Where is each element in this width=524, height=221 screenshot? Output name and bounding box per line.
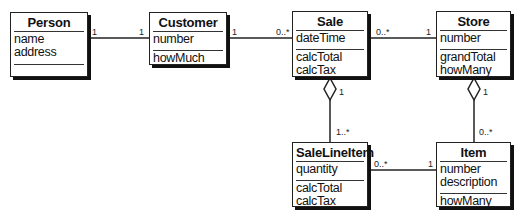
attribute: quantity (296, 163, 364, 176)
attributes-section: dateTime (296, 31, 364, 50)
operation: calcTax (296, 64, 364, 77)
aggregation-diamond-sale (324, 78, 336, 100)
attribute: description (440, 176, 507, 189)
class-name: Item (440, 143, 507, 162)
operation: calcTax (296, 195, 364, 208)
attributes-section: quantity (296, 162, 364, 181)
class-name: Customer (153, 13, 223, 32)
operation: howMuch (153, 52, 223, 65)
multiplicity-sale-salelineitem-to: 1..* (336, 128, 350, 137)
multiplicity-person-customer-to: 1 (139, 28, 144, 37)
attributes-section: number (440, 31, 507, 50)
multiplicity-customer-sale-to: 0..* (276, 28, 290, 37)
attributes-section: number description (440, 162, 507, 194)
operations-section: howMany (440, 194, 507, 209)
class-name: Store (440, 12, 507, 31)
attribute: dateTime (296, 32, 364, 45)
class-name: SaleLineItem (296, 143, 364, 162)
multiplicity-salelineitem-item-from: 0..* (374, 160, 388, 169)
class-name: Person (14, 13, 84, 32)
class-customer[interactable]: Customer number howMuch (149, 12, 227, 65)
operations-section: howMuch (153, 51, 223, 66)
aggregation-diamond-store (468, 78, 480, 100)
multiplicity-store-item-to: 0..* (479, 128, 493, 137)
attribute: number (153, 33, 223, 46)
class-store[interactable]: Store number grandTotal howMany (436, 11, 511, 77)
operation: howMany (440, 195, 507, 208)
class-name: Sale (296, 12, 364, 31)
multiplicity-sale-salelineitem-from: 1 (339, 88, 344, 97)
multiplicity-store-item-from: 1 (483, 88, 488, 97)
multiplicity-sale-store-from: 0..* (376, 28, 390, 37)
attribute: address (14, 46, 84, 59)
attributes-section: name address (14, 32, 84, 65)
multiplicity-salelineitem-item-to: 1 (428, 160, 433, 169)
multiplicity-customer-sale-from: 1 (232, 28, 237, 37)
class-item[interactable]: Item number description howMany (436, 142, 511, 207)
attributes-section: number (153, 32, 223, 51)
multiplicity-sale-store-to: 1 (426, 28, 431, 37)
operations-section: grandTotal howMany (440, 50, 507, 78)
operations-section (14, 65, 84, 67)
operations-section: calcTotal calcTax (296, 50, 364, 78)
multiplicity-person-customer-from: 1 (92, 28, 97, 37)
class-person[interactable]: Person name address (10, 12, 88, 77)
uml-class-diagram: Person name address Customer number howM… (0, 0, 524, 221)
operation: howMany (440, 64, 507, 77)
class-sale[interactable]: Sale dateTime calcTotal calcTax (292, 11, 368, 77)
class-salelineitem[interactable]: SaleLineItem quantity calcTotal calcTax (292, 142, 368, 207)
attribute: number (440, 32, 507, 45)
operations-section: calcTotal calcTax (296, 181, 364, 209)
